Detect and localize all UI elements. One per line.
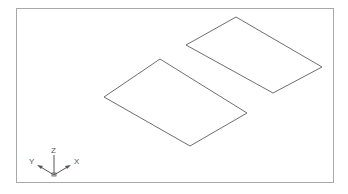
y-axis-label: Y — [29, 157, 35, 166]
left-plane-shape[interactable] — [104, 59, 247, 146]
drawing-canvas[interactable]: Z Y X — [0, 0, 348, 194]
right-plane-shape[interactable] — [186, 17, 322, 93]
ucs-axis-icon: Z Y X — [29, 146, 80, 176]
z-axis-label: Z — [51, 146, 56, 155]
x-axis-label: X — [74, 157, 80, 166]
